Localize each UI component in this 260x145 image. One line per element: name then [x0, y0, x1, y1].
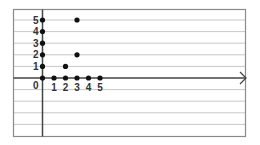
data-point [74, 17, 79, 22]
y-tick-label: 4 [33, 26, 39, 37]
grid-lines [14, 20, 246, 124]
data-point [40, 17, 45, 22]
data-point [74, 52, 79, 57]
chart-frame [14, 10, 246, 137]
y-tick-label: 2 [33, 49, 39, 60]
x-tick-label: 3 [74, 82, 80, 93]
y-tick-label: 5 [33, 15, 39, 26]
x-tick-labels: 123450 [33, 80, 103, 93]
data-point [40, 75, 45, 80]
x-tick-label: 2 [63, 82, 69, 93]
data-point [40, 64, 45, 69]
data-point [40, 29, 45, 34]
y-tick-label: 1 [33, 61, 39, 72]
x-tick-label: 5 [97, 82, 103, 93]
y-tick-labels: 12345 [33, 15, 39, 72]
x-tick-label: 1 [51, 82, 57, 93]
data-point [63, 64, 68, 69]
dot-plot-chart: 12345 123450 [0, 0, 260, 145]
data-point [63, 75, 68, 80]
data-points [40, 17, 103, 80]
origin-label: 0 [33, 80, 39, 91]
data-point [97, 75, 102, 80]
y-tick-label: 3 [33, 38, 39, 49]
x-tick-label: 4 [86, 82, 92, 93]
data-point [74, 75, 79, 80]
data-point [40, 41, 45, 46]
data-point [51, 75, 56, 80]
data-point [86, 75, 91, 80]
data-point [40, 52, 45, 57]
